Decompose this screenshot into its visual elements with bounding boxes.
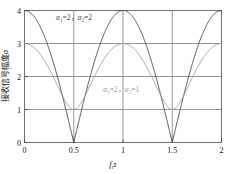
chart-figure: 00.511.52 01234 fττ 接收信号幅度α α1=2，α2=2α1=… bbox=[0, 0, 229, 174]
svg-text:接收信号幅度α: 接收信号幅度α bbox=[0, 49, 10, 102]
y-tick-label: 0 bbox=[17, 139, 21, 148]
svg-text:fττ: fττ bbox=[109, 159, 117, 170]
x-axis-title: fττ bbox=[109, 159, 117, 170]
x-tick-label: 0 bbox=[23, 146, 27, 155]
alpha2-value: =1 bbox=[131, 85, 139, 94]
alpha2-value: =2 bbox=[84, 13, 92, 22]
y-axis-title: 接收信号幅度α bbox=[0, 49, 10, 102]
x-tick-label: 1 bbox=[121, 146, 125, 155]
alpha1-value: =2， bbox=[63, 13, 78, 22]
y-tick-label: 1 bbox=[17, 106, 21, 115]
y-tick-label: 4 bbox=[17, 7, 21, 16]
x-tick-label: 0.5 bbox=[69, 146, 79, 155]
alpha1-value: =2， bbox=[110, 85, 125, 94]
x-tick-label: 2 bbox=[220, 146, 224, 155]
y-tick-label: 2 bbox=[17, 73, 21, 82]
ylabel-chinese: 接收信号幅度 bbox=[0, 54, 10, 102]
x-tick-label: 1.5 bbox=[167, 146, 177, 155]
y-tick-label: 3 bbox=[17, 40, 21, 49]
